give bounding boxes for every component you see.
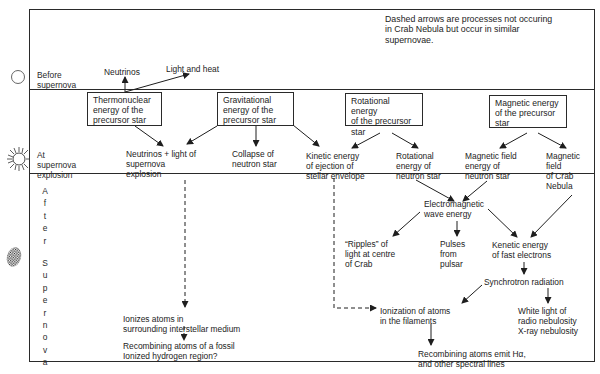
arrow-grav-to-kinetic xyxy=(293,125,319,146)
arrow-crab-to-kenetic xyxy=(531,195,572,237)
arrow-mag-to-crab-field xyxy=(538,133,566,148)
dashed-arrow-kinetic-to-ionization xyxy=(334,178,376,308)
arrow-magns-to-em xyxy=(463,181,487,201)
arrow-em-to-kenetic xyxy=(488,209,517,237)
arrow-thermo-to-neutrinos-light xyxy=(135,126,163,146)
arrow-em-to-ripples xyxy=(393,212,420,236)
arrow-to-light-heat xyxy=(125,74,189,92)
arrow-rot-to-kinetic xyxy=(352,133,380,148)
arrow-synch-to-ionization xyxy=(462,285,482,303)
arrow-rotns-to-em xyxy=(416,180,454,201)
arrow-mag-to-magnetic-ns xyxy=(500,133,527,148)
arrow-grav-to-neutrinos-light xyxy=(187,126,217,144)
arrow-rot-to-rotational-ns xyxy=(392,133,418,148)
arrows-layer xyxy=(0,0,600,374)
